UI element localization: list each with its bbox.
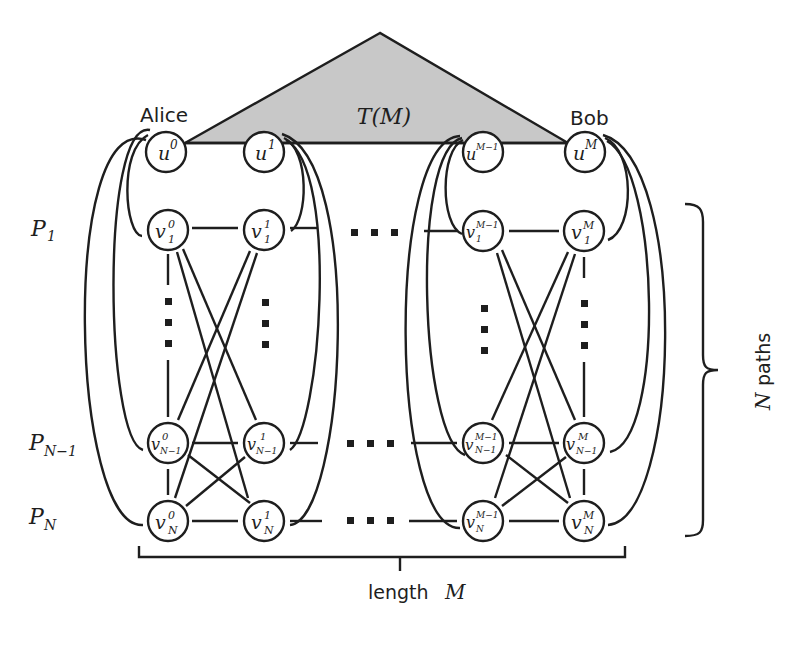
svg-text:v: v [566, 435, 575, 454]
node-uM: u M [565, 132, 605, 172]
svg-text:N: N [751, 391, 775, 411]
path-label-pN-1: P N−1 [28, 430, 77, 459]
edge [113, 130, 150, 450]
svg-text:0: 0 [168, 218, 175, 231]
ellipsis-dot [351, 229, 358, 236]
svg-text:v: v [466, 513, 475, 532]
svg-text:v: v [151, 435, 160, 454]
edge [603, 135, 665, 525]
edge [186, 457, 245, 506]
svg-text:N−1: N−1 [43, 443, 77, 459]
ellipsis-dot [481, 326, 488, 333]
svg-text:N−1: N−1 [575, 446, 597, 456]
edge [178, 251, 250, 420]
node-vN-0: v 0 N [148, 501, 188, 541]
ellipsis-dot [581, 300, 588, 307]
node-u1: u 1 [244, 132, 284, 172]
length-bracket [139, 546, 625, 557]
svg-text:u: u [255, 142, 267, 164]
svg-text:v: v [465, 436, 474, 454]
ellipsis-dot [481, 347, 488, 354]
node-vN-M-1: v M−1 N [463, 501, 503, 541]
svg-text:v: v [155, 220, 166, 242]
svg-text:0: 0 [162, 431, 169, 442]
node-vN-M: v M N [564, 501, 604, 541]
svg-text:paths: paths [752, 333, 774, 386]
ellipsis-dot [347, 517, 354, 524]
svg-text:N−1: N−1 [474, 445, 496, 455]
node-vN-1-0: v 0 N−1 [148, 423, 188, 463]
node-v1-1: v 1 1 [244, 210, 284, 250]
node-v1-0: v 0 1 [148, 210, 188, 250]
node-vN-1-M-1: v M−1 N−1 [463, 423, 503, 463]
path-label-pN: P N [28, 504, 57, 533]
svg-text:M−1: M−1 [475, 142, 498, 152]
svg-text:v: v [251, 511, 262, 533]
ellipsis-dot [387, 517, 394, 524]
svg-text:M: M [444, 580, 466, 604]
node-vN-1: v 1 N [244, 501, 284, 541]
svg-text:1: 1 [47, 228, 56, 244]
ellipsis-dot [581, 321, 588, 328]
ellipsis-dot [347, 440, 354, 447]
svg-text:N: N [43, 517, 57, 533]
node-u0: u 0 [146, 132, 186, 172]
svg-text:P: P [30, 216, 47, 241]
edge [183, 249, 256, 420]
svg-text:v: v [571, 221, 582, 243]
ellipsis-dot [367, 440, 374, 447]
node-v1-M-1: v M−1 1 [463, 211, 503, 251]
length-label: length M [368, 580, 466, 604]
svg-text:M−1: M−1 [475, 220, 498, 230]
node-vN-1-1: v 1 N−1 [244, 423, 284, 463]
svg-text:u: u [158, 142, 170, 164]
ellipsis-dot [165, 340, 172, 347]
ellipsis-dot [367, 517, 374, 524]
svg-text:length: length [368, 581, 429, 603]
svg-text:N: N [583, 524, 594, 537]
edge [446, 140, 463, 234]
ellipsis-dot [371, 229, 378, 236]
svg-text:1: 1 [264, 218, 271, 231]
svg-text:M: M [584, 138, 598, 152]
path-label-p1: P 1 [30, 216, 56, 244]
svg-text:1: 1 [168, 233, 175, 246]
svg-text:u: u [573, 142, 585, 164]
paths-brace [685, 204, 718, 536]
ellipsis-dot [165, 298, 172, 305]
svg-text:1: 1 [584, 234, 591, 247]
ellipsis-dot [391, 229, 398, 236]
edge [502, 457, 566, 506]
svg-text:1: 1 [476, 234, 482, 244]
svg-text:P: P [28, 504, 45, 529]
ellipsis-dot [581, 342, 588, 349]
edge [282, 134, 338, 525]
svg-text:v: v [247, 435, 256, 454]
svg-text:M−1: M−1 [474, 432, 497, 442]
svg-text:v: v [155, 511, 166, 533]
svg-text:N−1: N−1 [159, 446, 181, 456]
bob-label: Bob [570, 106, 609, 130]
ellipsis-dot [262, 299, 269, 306]
alice-label: Alice [140, 103, 188, 127]
svg-text:M: M [582, 509, 595, 522]
edge [284, 138, 304, 231]
svg-text:1: 1 [264, 509, 271, 522]
ellipsis-dot [262, 320, 269, 327]
graph-diagram: T(M) Alice Bob [0, 0, 798, 647]
svg-text:M: M [582, 219, 595, 232]
node-uM-1: u M−1 [463, 132, 503, 172]
svg-text:u: u [466, 145, 476, 164]
node-vN-1-M: v M N−1 [564, 423, 604, 463]
svg-text:1: 1 [260, 431, 266, 442]
svg-text:0: 0 [170, 138, 178, 152]
svg-text:0: 0 [168, 509, 175, 522]
svg-text:v: v [251, 220, 262, 242]
svg-text:P: P [28, 430, 45, 455]
svg-text:N−1: N−1 [255, 446, 277, 456]
node-v1-M: v M 1 [564, 211, 604, 251]
svg-text:M−1: M−1 [475, 510, 498, 520]
svg-text:N: N [167, 524, 178, 537]
svg-text:M: M [577, 431, 589, 442]
tree-label: T(M) [357, 104, 411, 129]
